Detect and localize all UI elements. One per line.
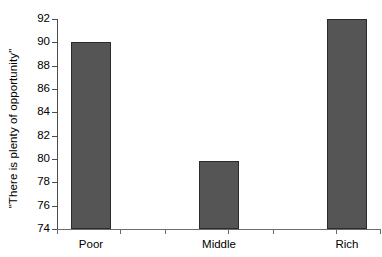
x-tick-mark <box>228 229 229 234</box>
y-tick-label: 84 <box>37 107 50 119</box>
x-tick-mark <box>165 229 166 234</box>
y-tick-mark <box>52 159 57 160</box>
y-axis-label-container: "There is plenty of opportunity" <box>2 0 26 257</box>
y-tick-label: 90 <box>37 37 50 49</box>
x-category-label: Rich <box>335 239 358 251</box>
plot-area: 74767880828486889092 PoorMiddleRich <box>57 19 381 229</box>
y-tick-label: 92 <box>37 13 50 25</box>
x-category-label: Middle <box>202 239 236 251</box>
y-tick-label: 78 <box>37 177 50 189</box>
y-tick-label: 80 <box>37 153 50 165</box>
x-tick-mark <box>336 229 337 234</box>
y-tick-label: 82 <box>37 130 50 142</box>
x-category-label: Poor <box>79 239 103 251</box>
bar <box>199 161 239 229</box>
y-tick-label: 76 <box>37 200 50 212</box>
y-tick-mark <box>52 89 57 90</box>
x-tick-mark <box>57 229 58 234</box>
y-tick-label: 88 <box>37 60 50 72</box>
bar <box>71 42 111 229</box>
x-tick-mark <box>380 229 381 234</box>
x-tick-mark <box>120 229 121 234</box>
y-tick-mark <box>52 182 57 183</box>
y-tick-mark <box>52 66 57 67</box>
y-tick-mark <box>52 19 57 20</box>
y-tick-label: 86 <box>37 83 50 95</box>
bar <box>327 19 367 229</box>
y-axis-line <box>57 19 58 230</box>
y-tick-mark <box>52 42 57 43</box>
x-axis-line <box>57 229 381 230</box>
x-tick-mark <box>273 229 274 234</box>
y-axis-label: "There is plenty of opportunity" <box>2 0 24 257</box>
y-tick-mark <box>52 112 57 113</box>
y-tick-label: 74 <box>37 223 50 235</box>
y-tick-mark <box>52 136 57 137</box>
bar-chart: "There is plenty of opportunity" 7476788… <box>0 0 382 257</box>
y-tick-mark <box>52 206 57 207</box>
